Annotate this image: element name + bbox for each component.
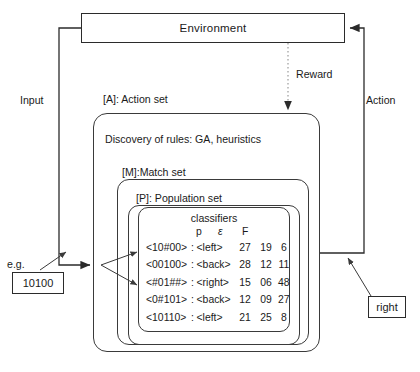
- example-input-connector: [40, 252, 66, 270]
- column-header-epsilon: ε: [218, 226, 242, 237]
- row-fitness: 6: [276, 242, 292, 253]
- row-action: <left>: [197, 312, 233, 323]
- row-condition: <00100>: [146, 259, 188, 270]
- row-action: <left>: [197, 242, 233, 253]
- example-output-connector: [348, 258, 371, 296]
- example-label: e.g.: [7, 258, 25, 270]
- discovery-of-rules-label: Discovery of rules: GA, heuristics: [105, 133, 261, 145]
- row-fitness: 48: [276, 277, 292, 288]
- input-connector: [59, 28, 90, 265]
- classifier-table: <10#00> : <left> 27 19 6 <00100> : <back…: [146, 242, 292, 329]
- row-action: <right>: [197, 277, 233, 288]
- row-prediction: 27: [233, 242, 251, 253]
- row-separator: :: [188, 242, 196, 253]
- match-set-title: [M]:Match set: [122, 166, 186, 178]
- table-row: <10110> : <left> 21 25 8: [146, 312, 292, 329]
- example-input-value: 10100: [23, 277, 54, 289]
- table-row: <10#00> : <left> 27 19 6: [146, 242, 292, 259]
- input-edge-label: Input: [20, 94, 44, 106]
- reward-edge-label: Reward: [296, 68, 333, 80]
- classifiers-title: classifiers: [138, 212, 290, 224]
- row-fitness: 11: [276, 259, 292, 270]
- row-separator: :: [188, 294, 196, 305]
- row-error: 19: [254, 242, 272, 253]
- action-connector: [320, 28, 364, 253]
- example-input-box: 10100: [12, 272, 64, 294]
- column-header-p: p: [196, 226, 218, 237]
- row-action: <back>: [197, 294, 233, 305]
- column-header-f: F: [242, 226, 264, 237]
- row-separator: :: [188, 259, 196, 270]
- row-prediction: 21: [233, 312, 251, 323]
- row-condition: <0#101>: [146, 294, 188, 305]
- environment-box: Environment: [81, 13, 345, 43]
- row-prediction: 28: [233, 259, 251, 270]
- classifier-column-headers: p ε F: [196, 226, 274, 237]
- table-row: <0#101> : <back> 12 09 27: [146, 294, 292, 311]
- diagram-canvas: Environment Input Action Reward [A]: Act…: [0, 0, 420, 372]
- example-output-value: right: [376, 301, 397, 313]
- row-action: <back>: [197, 259, 233, 270]
- population-set-title: [P]: Population set: [136, 192, 222, 204]
- action-edge-label: Action: [366, 94, 395, 106]
- row-prediction: 15: [233, 277, 251, 288]
- environment-label: Environment: [180, 22, 247, 34]
- row-error: 25: [254, 312, 272, 323]
- table-row: <00100> : <back> 28 12 11: [146, 259, 292, 276]
- row-error: 12: [254, 259, 272, 270]
- row-separator: :: [188, 277, 196, 288]
- row-error: 09: [254, 294, 272, 305]
- table-row: <#01##> : <right> 15 06 48: [146, 277, 292, 294]
- row-separator: :: [188, 312, 196, 323]
- row-fitness: 27: [276, 294, 292, 305]
- row-condition: <#01##>: [146, 277, 188, 288]
- row-condition: <10#00>: [146, 242, 188, 253]
- row-prediction: 12: [233, 294, 251, 305]
- action-set-title: [A]: Action set: [103, 93, 168, 105]
- row-condition: <10110>: [146, 312, 188, 323]
- example-output-box: right: [368, 296, 406, 318]
- row-fitness: 8: [276, 312, 292, 323]
- row-error: 06: [254, 277, 272, 288]
